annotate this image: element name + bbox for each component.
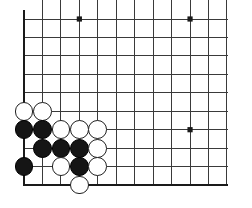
board-edges — [23, 10, 228, 185]
goban-grid[interactable] — [0, 0, 252, 208]
star-point — [187, 127, 192, 132]
star-point — [187, 16, 192, 21]
star-point — [77, 16, 82, 21]
grid-lines — [24, 0, 228, 185]
go-board-diagram — [0, 0, 252, 208]
